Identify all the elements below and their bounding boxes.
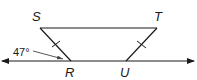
label-r: R bbox=[65, 65, 74, 80]
label-t: T bbox=[154, 9, 163, 24]
geometry-diagram: S T R U 47° bbox=[0, 0, 197, 80]
angle-pointer-arrow bbox=[33, 51, 63, 59]
label-u: U bbox=[120, 65, 130, 80]
tick-mark-tu bbox=[137, 41, 146, 48]
angle-label-47: 47° bbox=[13, 46, 30, 58]
label-s: S bbox=[32, 9, 41, 24]
